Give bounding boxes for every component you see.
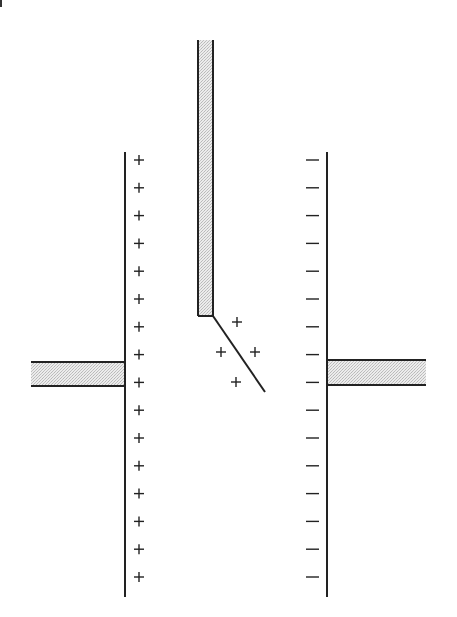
plus-charge-icon [134, 294, 144, 304]
plus-charge-icon [134, 211, 144, 221]
plus-charge-icon [134, 405, 144, 415]
plus-charge-icon [134, 433, 144, 443]
diagram-canvas [0, 0, 457, 617]
plus-charge-icon [134, 350, 144, 360]
plus-charge-icon [134, 322, 144, 332]
plus-charge-icon [134, 489, 144, 499]
plus-charge-icon [134, 155, 144, 165]
plus-charge-icon [216, 347, 226, 357]
plus-charge-icon [134, 516, 144, 526]
plus-charge-icon [134, 461, 144, 471]
left-plate-charges [134, 155, 144, 582]
top-feed-rod [198, 40, 213, 316]
plus-charge-icon [231, 377, 241, 387]
right-lead-wire [327, 360, 426, 385]
corner-mark [0, 0, 2, 7]
right-plate-charges [306, 160, 319, 577]
plus-charge-icon [232, 317, 242, 327]
plus-charge-icon [134, 572, 144, 582]
plus-charge-icon [134, 377, 144, 387]
plus-charge-icon [134, 544, 144, 554]
plus-charge-icon [134, 238, 144, 248]
plus-charge-icon [250, 347, 260, 357]
plus-charge-icon [134, 183, 144, 193]
left-lead-wire [31, 362, 125, 386]
plus-charge-icon [134, 266, 144, 276]
